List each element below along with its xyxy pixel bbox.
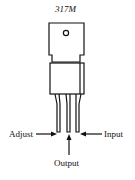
regulator-package-diagram: 317M Adjust Input Output <box>0 0 135 180</box>
output-arrowhead <box>67 134 72 140</box>
lead-adjust <box>55 94 60 132</box>
mounting-hole <box>63 30 68 35</box>
input-label: Input <box>104 129 123 139</box>
adjust-arrowhead <box>51 132 57 137</box>
package-body <box>50 63 84 94</box>
lead-input <box>76 94 81 132</box>
mounting-tab <box>49 23 84 62</box>
part-number-title: 317M <box>54 4 77 14</box>
lead-output <box>66 94 70 132</box>
output-label: Output <box>54 158 80 168</box>
input-arrowhead <box>80 132 86 137</box>
adjust-label: Adjust <box>9 129 34 139</box>
